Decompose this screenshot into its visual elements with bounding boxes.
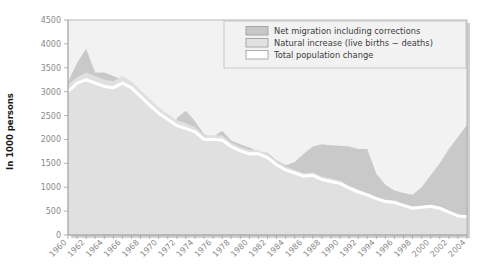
legend-swatch-natural-increase [246,39,268,48]
x-axis: 1960196219641966196819701972197419761978… [48,235,468,259]
x-tick-label: 1962 [66,238,87,259]
x-tick-label: 2000 [410,238,431,259]
x-tick-label: 1978 [211,238,232,259]
x-tick-label: 1998 [392,238,413,259]
chart-canvas: 050010001500200025003000350040004500 196… [0,0,488,276]
x-tick-label: 1990 [320,238,341,259]
legend-label-total-change: Total population change [273,50,373,60]
x-tick-label: 1970 [138,238,159,259]
y-tick-label: 3000 [41,88,61,97]
x-tick-label: 1996 [374,238,395,259]
y-tick-label: 500 [46,207,61,216]
chart-legend: Net migration including corrections Natu… [224,21,466,68]
legend-item-total-change: Total population change [246,50,373,60]
x-tick-label: 1972 [156,238,177,259]
x-tick-label: 1984 [265,238,286,259]
y-axis-label: In 1000 persons [5,93,15,170]
legend-label-natural-increase: Natural increase (live births − deaths) [274,38,433,48]
x-tick-label: 1974 [175,238,196,259]
x-tick-label: 1988 [302,238,323,259]
x-tick-label: 1968 [120,238,141,259]
x-tick-label: 1966 [102,238,123,259]
legend-item-natural-increase: Natural increase (live births − deaths) [246,38,433,48]
y-tick-label: 2500 [41,112,61,121]
x-tick-label: 1982 [247,238,268,259]
population-change-chart: 050010001500200025003000350040004500 196… [0,0,488,276]
x-tick-label: 2002 [429,238,450,259]
y-tick-label: 1000 [41,183,61,192]
y-axis: 050010001500200025003000350040004500 [41,16,68,240]
legend-label-net-migration: Net migration including corrections [274,26,420,36]
y-tick-label: 4500 [41,16,61,25]
legend-swatch-net-migration [246,27,268,36]
x-tick-label: 1964 [84,238,105,259]
x-tick-label: 1976 [193,238,214,259]
x-tick-label: 1992 [338,238,359,259]
x-tick-label: 1986 [283,238,304,259]
legend-swatch-total-change [246,51,268,60]
x-tick-label: 2004 [447,238,468,259]
x-tick-label: 1994 [356,238,377,259]
y-tick-label: 4000 [41,40,61,49]
y-tick-label: 3500 [41,64,61,73]
x-tick-label: 1980 [229,238,250,259]
y-tick-label: 2000 [41,135,61,144]
y-tick-label: 1500 [41,159,61,168]
x-tick-label: 1960 [48,238,69,259]
